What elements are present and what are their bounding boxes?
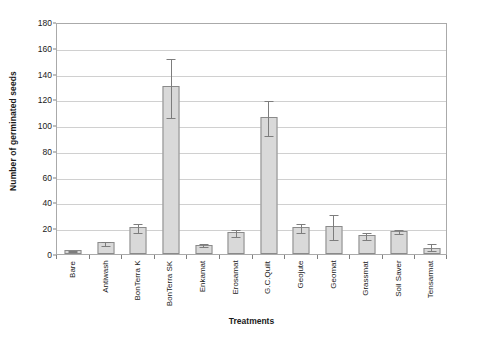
- error-bar-cap-bottom: [264, 136, 273, 137]
- error-bar: [232, 230, 241, 238]
- bar-slot: [383, 24, 416, 254]
- x-axis-tick-label-text: G.C.Quilt: [263, 261, 272, 294]
- x-axis-tick-label: Enkamat: [186, 260, 219, 316]
- error-bar-cap-top: [264, 101, 273, 102]
- error-bar: [329, 215, 338, 241]
- error-bar-cap-bottom: [167, 118, 176, 119]
- x-axis-tick-mark: [284, 255, 285, 259]
- error-bar-stem: [268, 101, 269, 137]
- error-bar-cap-bottom: [134, 233, 143, 234]
- bar-slot: [187, 24, 220, 254]
- x-axis-title: Treatments: [56, 316, 447, 326]
- x-axis-tick-label: Tensarmat: [414, 260, 447, 316]
- error-bar-stem: [171, 59, 172, 120]
- x-axis-tick-label-text: Geomat: [328, 260, 337, 288]
- x-axis-tick-mark: [446, 255, 447, 259]
- x-axis-tick-label: Geomat: [317, 260, 350, 316]
- x-axis-tick-label-text: Tensarmat: [426, 260, 435, 297]
- bar-slot: [318, 24, 351, 254]
- error-bar-cap-bottom: [69, 252, 78, 253]
- error-bar-cap-top: [199, 244, 208, 245]
- y-axis-tick-label: 0: [47, 250, 52, 260]
- x-axis-tick-mark: [89, 255, 90, 259]
- x-axis-tick-label: Antiwash: [89, 260, 122, 316]
- x-axis-tick-mark: [252, 255, 253, 259]
- error-bar: [199, 244, 208, 248]
- x-axis-tick-label: BonTerra SK: [154, 260, 187, 316]
- x-axis-tick-mark: [219, 255, 220, 259]
- y-axis-title-text: Number of germinated seeds: [8, 71, 18, 191]
- x-axis-tick-label: Soil Saver: [382, 260, 415, 316]
- error-bar: [297, 224, 306, 234]
- x-axis-tick-label-text: Geojute: [296, 260, 305, 288]
- error-bar-cap-bottom: [362, 240, 371, 241]
- x-axis-tick-mark: [121, 255, 122, 259]
- error-bar-cap-top: [134, 224, 143, 225]
- error-bar: [395, 230, 404, 235]
- bars-layer: [57, 24, 446, 254]
- y-axis-tick-label: 20: [43, 224, 52, 234]
- bar-slot: [90, 24, 123, 254]
- error-bar-cap-top: [297, 224, 306, 225]
- x-axis-tick-mark: [349, 255, 350, 259]
- bar-slot: [220, 24, 253, 254]
- x-axis-tick-mark: [154, 255, 155, 259]
- x-axis-tick-label: Grassmat: [349, 260, 382, 316]
- error-bar: [167, 59, 176, 120]
- bar-slot: [122, 24, 155, 254]
- error-bar: [427, 244, 436, 252]
- x-axis-tick-mark: [317, 255, 318, 259]
- error-bar-cap-bottom: [199, 247, 208, 248]
- bar-chart: Number of germinated seeds 0204060801001…: [0, 0, 480, 338]
- x-axis-tick-label: G.C.Quilt: [252, 260, 285, 316]
- error-bar: [362, 233, 371, 241]
- x-axis-tick-label-text: Erosamat: [231, 260, 240, 294]
- error-bar: [101, 242, 110, 247]
- error-bar: [134, 224, 143, 234]
- error-bar-cap-bottom: [427, 251, 436, 252]
- x-axis-tick-label: Bare: [56, 260, 89, 316]
- y-axis-tick-label: 80: [43, 147, 52, 157]
- error-bar-cap-top: [395, 230, 404, 231]
- bar-slot: [57, 24, 90, 254]
- error-bar-cap-top: [232, 230, 241, 231]
- error-bar-cap-top: [427, 244, 436, 245]
- error-bar-cap-top: [329, 215, 338, 216]
- bar[interactable]: [260, 117, 277, 254]
- error-bar-cap-top: [167, 59, 176, 60]
- plot-area: [56, 23, 447, 255]
- bar-slot: [415, 24, 448, 254]
- y-axis-tick-label: 40: [43, 198, 52, 208]
- error-bar-cap-bottom: [329, 240, 338, 241]
- bar-slot: [350, 24, 383, 254]
- y-axis-title: Number of germinated seeds: [0, 0, 26, 262]
- x-axis-tick-label-text: Bare: [68, 261, 77, 278]
- x-axis-tick-label-text: BonTerra SK: [166, 260, 175, 305]
- bar-slot: [253, 24, 286, 254]
- bar-slot: [155, 24, 188, 254]
- y-axis-tick-label: 100: [38, 121, 52, 131]
- error-bar-cap-bottom: [395, 234, 404, 235]
- x-axis-tick-label: Erosamat: [219, 260, 252, 316]
- x-axis-tick-label-text: Grassmat: [361, 261, 370, 296]
- error-bar-stem: [333, 215, 334, 241]
- y-axis-tick-label: 120: [38, 95, 52, 105]
- x-axis-tick-labels: BareAntiwashBonTerra KBonTerra SKEnkamat…: [56, 260, 447, 316]
- x-axis-tick-label-text: Soil Saver: [394, 260, 403, 296]
- y-axis-tick-labels: 020406080100120140160180: [26, 23, 56, 255]
- x-axis-tick-mark: [382, 255, 383, 259]
- error-bar-cap-bottom: [297, 233, 306, 234]
- x-axis-tick-label-text: Enkamat: [198, 261, 207, 293]
- y-axis-tick-label: 140: [38, 70, 52, 80]
- y-axis-tick-label: 60: [43, 173, 52, 183]
- x-axis-tick-mark: [186, 255, 187, 259]
- error-bar-cap-top: [101, 242, 110, 243]
- x-axis-tick-mark: [56, 255, 57, 259]
- y-axis-tick-label: 160: [38, 44, 52, 54]
- bar-slot: [285, 24, 318, 254]
- x-axis-tick-label-text: Antiwash: [100, 260, 109, 292]
- x-axis-tick-label: BonTerra K: [121, 260, 154, 316]
- error-bar-cap-bottom: [232, 237, 241, 238]
- x-axis-tick-mark: [414, 255, 415, 259]
- error-bar-cap-top: [362, 233, 371, 234]
